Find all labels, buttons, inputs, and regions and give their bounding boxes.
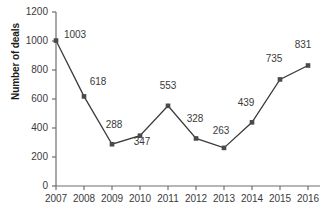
axes <box>52 12 320 190</box>
x-axis-tick-label: 2014 <box>237 193 267 204</box>
data-point-marker <box>166 104 171 109</box>
x-axis-ticks <box>56 186 308 190</box>
data-point-label: 1003 <box>59 29 91 40</box>
data-point-label: 328 <box>179 113 211 124</box>
data-point-marker <box>194 136 199 141</box>
data-point-label: 263 <box>205 125 237 136</box>
x-axis-tick-label: 2013 <box>209 193 239 204</box>
x-axis-tick-label: 2009 <box>97 193 127 204</box>
data-point-label: 347 <box>126 136 158 147</box>
data-point-marker <box>250 120 255 125</box>
y-axis-tick-label: 400 <box>14 122 48 133</box>
data-point-label: 831 <box>287 39 319 50</box>
y-axis-tick-label: 800 <box>14 64 48 75</box>
data-point-marker <box>306 63 311 68</box>
y-axis-tick-label: 1200 <box>14 6 48 17</box>
data-point-marker <box>54 38 59 43</box>
line-chart: Number of deals 020040060080010001200 20… <box>0 0 323 209</box>
x-axis-tick-label: 2007 <box>41 193 71 204</box>
data-point-label: 553 <box>152 80 184 91</box>
data-point-label: 439 <box>230 97 262 108</box>
y-axis-tick-label: 0 <box>14 180 48 191</box>
x-axis-tick-label: 2011 <box>153 193 183 204</box>
x-axis-tick-label: 2012 <box>181 193 211 204</box>
data-point-marker <box>222 146 227 151</box>
y-axis-tick-label: 1000 <box>14 35 48 46</box>
data-point-marker <box>82 94 87 99</box>
data-point-label: 618 <box>82 76 114 87</box>
data-point-marker <box>110 142 115 147</box>
y-axis-tick-label: 200 <box>14 151 48 162</box>
data-point-marker <box>278 77 283 82</box>
x-axis-tick-label: 2015 <box>265 193 295 204</box>
x-axis-tick-label: 2010 <box>125 193 155 204</box>
x-axis-tick-label: 2016 <box>293 193 323 204</box>
y-axis-tick-label: 600 <box>14 93 48 104</box>
x-axis-tick-label: 2008 <box>69 193 99 204</box>
data-point-label: 735 <box>258 53 290 64</box>
chart-canvas <box>0 0 323 209</box>
data-point-label: 288 <box>98 119 130 130</box>
